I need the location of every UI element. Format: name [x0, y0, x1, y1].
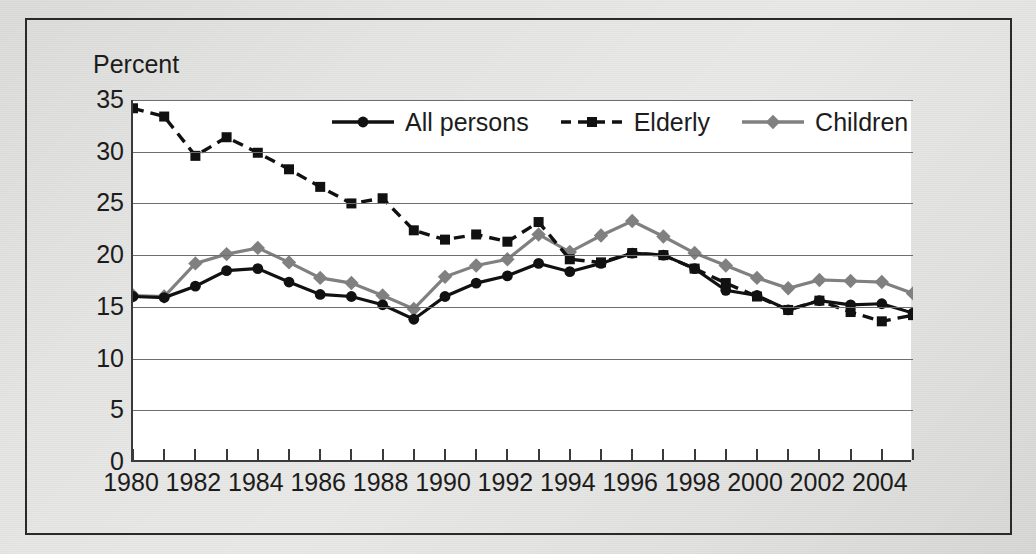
x-axis-tick-label: 1990 [408, 470, 478, 495]
legend-swatch-diamond-icon [740, 112, 806, 132]
x-axis-tick-mark [818, 449, 820, 460]
x-axis-tick-mark [569, 449, 571, 460]
gridline [133, 152, 913, 153]
series-layer [133, 100, 913, 462]
x-axis-tick-mark [444, 449, 446, 460]
data-point-marker [440, 235, 450, 245]
y-axis-tick-label: 15 [96, 294, 124, 319]
data-point-marker [408, 314, 419, 325]
data-point-marker [502, 270, 513, 281]
data-point-marker [377, 299, 388, 310]
data-point-marker [440, 291, 451, 302]
x-axis-tick-mark [600, 449, 602, 460]
x-axis-tick-label: 2004 [845, 470, 915, 495]
data-point-marker [721, 278, 731, 288]
data-point-marker [284, 164, 294, 174]
x-axis-tick-mark [350, 449, 352, 460]
x-axis-tick-mark [506, 449, 508, 460]
data-point-marker [533, 258, 544, 269]
x-axis-tick-label: 1998 [658, 470, 728, 495]
data-point-marker [219, 247, 233, 261]
x-axis-tick-label: 1986 [283, 470, 353, 495]
x-axis-tick-mark [413, 449, 415, 460]
data-point-marker [315, 182, 325, 192]
data-point-marker [752, 292, 762, 302]
data-point-marker [133, 291, 138, 302]
data-point-marker [766, 115, 780, 129]
data-point-marker [587, 117, 597, 127]
data-point-marker [846, 307, 856, 317]
series-children [133, 214, 913, 316]
data-point-marker [690, 264, 700, 274]
data-point-marker [471, 278, 482, 289]
data-point-marker [221, 265, 232, 276]
figure-container: Percent 05101520253035 19801982198419861… [0, 0, 1036, 554]
x-axis-tick-mark [257, 449, 259, 460]
data-point-marker [282, 255, 296, 269]
data-point-marker [656, 229, 670, 243]
data-point-marker [471, 229, 481, 239]
x-axis-tick-mark [850, 449, 852, 460]
data-point-marker [378, 193, 388, 203]
data-point-marker [251, 241, 265, 255]
x-axis-tick-mark [319, 449, 321, 460]
legend-item-children[interactable]: Children [740, 110, 908, 135]
x-axis-tick-label: 1982 [158, 470, 228, 495]
data-point-marker [812, 273, 826, 287]
x-axis-tick-mark [756, 449, 758, 460]
x-axis-tick-label: 1996 [595, 470, 665, 495]
x-axis-tick-label: 1994 [533, 470, 603, 495]
data-point-marker [906, 286, 913, 300]
x-axis-tick-mark [194, 449, 196, 460]
data-point-marker [814, 296, 824, 306]
legend-swatch-square-icon [559, 112, 625, 132]
y-axis-tick-label: 5 [110, 397, 124, 422]
legend-item-elderly[interactable]: Elderly [559, 110, 710, 135]
y-axis-tick-label: 10 [96, 346, 124, 371]
y-axis-title: Percent [93, 52, 179, 77]
data-point-marker [344, 276, 358, 290]
x-axis-tick-mark [881, 449, 883, 460]
data-point-marker [358, 117, 369, 128]
data-point-marker [346, 291, 357, 302]
gridline [133, 359, 913, 360]
gridline [133, 255, 913, 256]
x-axis-tick-mark [288, 449, 290, 460]
data-point-marker [159, 292, 170, 303]
data-point-marker [313, 271, 327, 285]
data-point-marker [596, 257, 606, 267]
data-point-marker [469, 258, 483, 272]
x-axis-tick-label: 1992 [470, 470, 540, 495]
x-axis-tick-mark [725, 449, 727, 460]
data-point-marker [159, 112, 169, 122]
data-point-marker [908, 310, 913, 320]
data-point-marker [719, 258, 733, 272]
data-point-marker [564, 266, 575, 277]
x-axis-tick-label: 1984 [221, 470, 291, 495]
x-axis-tick-mark [538, 449, 540, 460]
x-axis-tick-mark [694, 449, 696, 460]
data-point-marker [315, 289, 326, 300]
legend-item-all-persons[interactable]: All persons [330, 110, 529, 135]
y-axis-tick-label: 30 [96, 139, 124, 164]
data-point-marker [843, 274, 857, 288]
data-point-marker [284, 277, 295, 288]
legend-label: Elderly [634, 110, 710, 135]
data-point-marker [687, 246, 701, 260]
x-axis-tick-mark [787, 449, 789, 460]
x-axis-tick-mark [662, 449, 664, 460]
data-point-marker [252, 263, 263, 274]
gridline [133, 410, 913, 411]
x-axis-tick-label: 1980 [96, 470, 166, 495]
x-axis-tick-label: 1988 [346, 470, 416, 495]
series-line [133, 221, 913, 309]
data-point-marker [222, 132, 232, 142]
legend-swatch-circle-icon [330, 112, 396, 132]
data-point-marker [877, 316, 887, 326]
legend-label: All persons [405, 110, 529, 135]
x-axis-tick-label: 2000 [720, 470, 790, 495]
data-point-marker [253, 148, 263, 158]
data-point-marker [133, 103, 138, 113]
data-point-marker [594, 228, 608, 242]
y-axis-tick-label: 25 [96, 190, 124, 215]
